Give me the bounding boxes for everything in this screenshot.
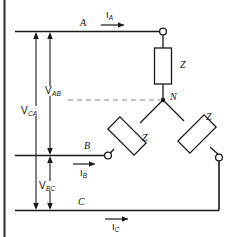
voltage-vbc-label: VBC [38,181,56,191]
voltage-vbc-symbol: V [39,180,46,191]
current-arrow-ia [101,22,124,28]
phase-c-label: C [78,197,85,207]
current-ib-label: IB [80,168,87,178]
current-ia-subscript: A [109,14,113,21]
current-arrow-ib [73,161,95,167]
current-ib-subscript: B [83,172,87,179]
circuit-diagram-canvas: A B C N Z Z Z IA IB IC VAB VCA VBC [0,0,233,237]
circuit-schematic-svg [0,0,233,237]
voltage-vca-label: VCA [20,106,38,116]
current-ia-label: IA [106,10,113,20]
terminal-b [105,152,112,159]
impedance-za-label: Z [180,60,186,70]
terminal-c [216,154,223,161]
terminal-a [160,28,167,35]
voltage-vca-symbol: V [21,105,28,116]
voltage-vca-subscript: CA [28,110,37,117]
voltage-vbc-subscript: BC [46,185,55,192]
voltage-vab-label: VAB [44,86,62,96]
lead-neutral-to-zc [163,100,184,121]
current-arrow-ic [105,216,128,222]
neutral-node-label: N [170,92,177,102]
current-ic-subscript: C [115,226,120,233]
phase-a-label: A [80,18,86,28]
impedance-za-body [155,48,172,84]
impedance-zb-label: Z [142,133,148,143]
current-ic-label: IC [112,222,119,232]
phase-b-label: B [84,141,90,151]
voltage-vab-symbol: V [45,85,52,96]
lead-neutral-to-zb [140,100,163,123]
voltage-vab-subscript: AB [52,90,61,97]
impedance-zc-label: Z [206,112,212,122]
